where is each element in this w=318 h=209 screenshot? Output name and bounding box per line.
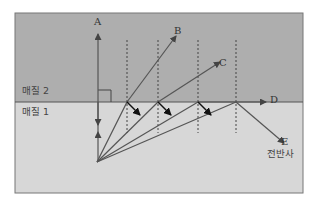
- medium-1-region: [15, 102, 303, 193]
- label-medium-1: 매질 1: [22, 106, 49, 117]
- label-a: A: [93, 16, 102, 27]
- label-d: D: [270, 94, 278, 105]
- refraction-diagram: A B C D E 전반사 매질 2 매질 1: [0, 0, 318, 209]
- label-b: B: [174, 25, 181, 36]
- medium-2-region: [15, 13, 303, 102]
- label-medium-2: 매질 2: [22, 85, 49, 96]
- label-c: C: [219, 57, 227, 68]
- label-e: E: [281, 136, 288, 147]
- label-total-reflection: 전반사: [267, 148, 294, 159]
